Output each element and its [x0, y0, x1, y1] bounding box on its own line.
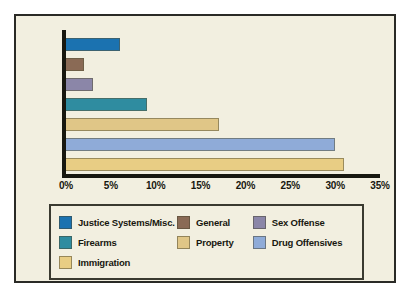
legend-label: Property [196, 237, 233, 248]
x-tick-label: 20% [236, 180, 255, 191]
legend-item-general[interactable]: General [177, 212, 253, 232]
category-axis-line [62, 174, 380, 178]
bar-immigration [66, 158, 344, 171]
bar-row [66, 114, 380, 134]
chart-figure: 0%5%10%15%20%25%30%35% Justice Systems/M… [14, 14, 396, 283]
x-axis-tick-labels: 0%5%10%15%20%25%30%35% [34, 180, 382, 194]
legend-label: General [196, 217, 230, 228]
bar-row [66, 34, 380, 54]
x-tick-label: 10% [146, 180, 165, 191]
legend-swatch-icon [177, 236, 190, 249]
x-tick-label: 5% [104, 180, 118, 191]
legend-label: Drug Offensives [272, 237, 342, 248]
x-tick-label: 30% [325, 180, 344, 191]
bar-drug-offensives [66, 138, 335, 151]
legend-row: Immigration [59, 252, 354, 272]
legend-swatch-icon [177, 216, 190, 229]
legend-item-sex-offense[interactable]: Sex Offense [253, 212, 354, 232]
legend-swatch-icon [59, 236, 72, 249]
legend-label: Sex Offense [272, 217, 325, 228]
x-tick-label: 0% [59, 180, 73, 191]
legend-item-justice-systems-misc[interactable]: Justice Systems/Misc. [59, 212, 177, 232]
bar-property [66, 118, 219, 131]
plot-area: 0%5%10%15%20%25%30%35% [34, 30, 382, 190]
legend-label: Firearms [78, 237, 117, 248]
legend-swatch-icon [253, 216, 266, 229]
bar-row [66, 134, 380, 154]
legend-label: Justice Systems/Misc. [78, 217, 175, 228]
legend-swatch-icon [59, 256, 72, 269]
bar-row [66, 54, 380, 74]
x-tick-label: 15% [191, 180, 210, 191]
x-tick-label: 25% [281, 180, 300, 191]
x-tick-label: 35% [370, 180, 389, 191]
bar-firearms [66, 98, 147, 111]
legend-row: FirearmsPropertyDrug Offensives [59, 232, 354, 252]
chart-legend: Justice Systems/Misc.GeneralSex OffenseF… [49, 204, 364, 280]
bar-sex-offense [66, 78, 93, 91]
legend-item-immigration[interactable]: Immigration [59, 252, 199, 272]
legend-swatch-icon [59, 216, 72, 229]
legend-item-property[interactable]: Property [177, 232, 253, 252]
bar-row [66, 94, 380, 114]
legend-item-drug-offensives[interactable]: Drug Offensives [253, 232, 354, 252]
legend-swatch-icon [253, 236, 266, 249]
bar-row [66, 74, 380, 94]
legend-row: Justice Systems/Misc.GeneralSex Offense [59, 212, 354, 232]
legend-item-firearms[interactable]: Firearms [59, 232, 177, 252]
legend-label: Immigration [78, 257, 130, 268]
bar-justice-systems-misc [66, 38, 120, 51]
bar-series [66, 34, 380, 174]
bar-general [66, 58, 84, 71]
bar-row [66, 154, 380, 174]
